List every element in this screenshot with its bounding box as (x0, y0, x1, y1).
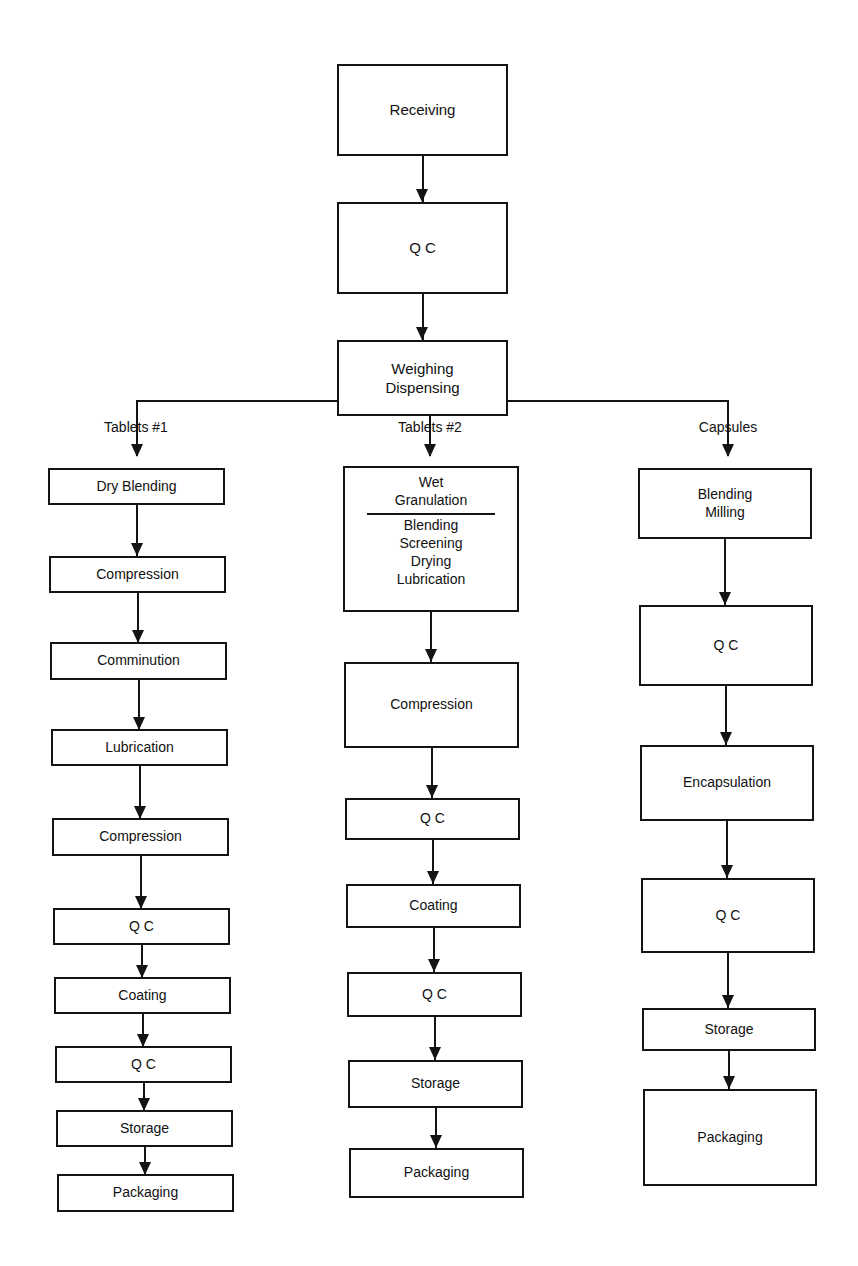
node-label: Q C (129, 918, 154, 936)
node-label: Coating (118, 987, 166, 1005)
arrowhead-c-5 (723, 1076, 735, 1089)
arrowhead-t2-5 (429, 1047, 441, 1060)
node-label: Q C (131, 1056, 156, 1074)
node-t2-packaging: Packaging (349, 1148, 524, 1198)
node-label: Encapsulation (683, 774, 771, 792)
node-label: Compression (390, 696, 472, 714)
node-label: Storage (704, 1021, 753, 1039)
node-label-head1: Wet (419, 474, 444, 492)
node-label: Storage (411, 1075, 460, 1093)
node-t2-storage: Storage (348, 1060, 523, 1108)
node-label: Dry Blending (96, 478, 176, 496)
arrowhead-branch-tablets1 (131, 444, 143, 457)
process-flow-diagram: Receiving Q C Weighing Dispensing Tablet… (0, 0, 858, 1266)
arrowhead-t2-4 (428, 959, 440, 972)
node-t1-coating: Coating (54, 977, 231, 1014)
node-t1-compression-2: Compression (52, 818, 229, 856)
node-label-line2: Dispensing (385, 378, 459, 397)
node-t1-qc-2: Q C (55, 1046, 232, 1083)
node-label: Compression (96, 566, 178, 584)
node-label: Coating (409, 897, 457, 915)
node-t1-compression-1: Compression (49, 556, 226, 593)
arrowhead-c-1 (719, 592, 731, 605)
node-t2-qc-1: Q C (345, 798, 520, 840)
node-label: Q C (420, 810, 445, 828)
node-c-storage: Storage (642, 1008, 816, 1051)
arrowhead-qc-to-weighing (416, 327, 428, 340)
node-qc-top: Q C (337, 202, 508, 294)
node-label: Q C (716, 907, 741, 925)
arrowhead-t2-3 (427, 871, 439, 884)
node-weighing-dispensing: Weighing Dispensing (337, 340, 508, 416)
node-label: Storage (120, 1120, 169, 1138)
node-label: Packaging (697, 1129, 762, 1147)
node-label: Receiving (390, 100, 456, 119)
node-t2-compression: Compression (344, 662, 519, 748)
arrowhead-c-2 (720, 732, 732, 745)
node-label: Packaging (404, 1164, 469, 1182)
node-subitem-drying: Drying (411, 553, 451, 571)
arrowhead-c-3 (721, 865, 733, 878)
arrowhead-receiving-to-qc (416, 189, 428, 202)
node-t1-storage: Storage (56, 1110, 233, 1147)
node-t2-coating: Coating (346, 884, 521, 928)
node-divider (367, 513, 494, 515)
node-label-line1: Blending (698, 486, 753, 504)
node-label: Q C (422, 986, 447, 1004)
node-t2-qc-2: Q C (347, 972, 522, 1017)
node-t1-lubrication: Lubrication (51, 729, 228, 766)
node-t1-qc-1: Q C (53, 908, 230, 945)
arrowhead-t2-2 (426, 785, 438, 798)
branch-label-tablets2: Tablets #2 (350, 419, 510, 435)
node-label: Comminution (97, 652, 179, 670)
node-subitem-lubrication: Lubrication (397, 571, 466, 589)
node-subitem-blending: Blending (404, 517, 459, 535)
arrowhead-t1-1 (131, 543, 143, 556)
arrowhead-t2-6 (430, 1135, 442, 1148)
node-c-encapsulation: Encapsulation (640, 745, 814, 821)
arrowhead-branch-capsules (722, 444, 734, 457)
node-label-line1: Weighing (391, 359, 453, 378)
arrowhead-branch-tablets2 (424, 444, 436, 457)
node-t2-wet-granulation: Wet Granulation Blending Screening Dryin… (343, 466, 519, 612)
arrowhead-t2-1 (425, 649, 437, 662)
node-label: Lubrication (105, 739, 174, 757)
node-t1-dry-blending: Dry Blending (48, 468, 225, 505)
node-label: Q C (714, 637, 739, 655)
node-label-head2: Granulation (395, 492, 467, 510)
branch-label-tablets1: Tablets #1 (56, 419, 216, 435)
branch-label-capsules: Capsules (648, 419, 808, 435)
node-t1-packaging: Packaging (57, 1174, 234, 1212)
branch-bus-left (136, 400, 339, 402)
node-label-line2: Milling (705, 504, 745, 522)
node-c-blending-milling: Blending Milling (638, 468, 812, 539)
node-c-qc-1: Q C (639, 605, 813, 686)
node-label: Compression (99, 828, 181, 846)
arrowhead-c-4 (722, 995, 734, 1008)
node-c-qc-2: Q C (641, 878, 815, 953)
node-subitem-screening: Screening (399, 535, 462, 553)
node-receiving: Receiving (337, 64, 508, 156)
node-label: Q C (409, 238, 436, 257)
branch-bus-right (506, 400, 729, 402)
node-label: Packaging (113, 1184, 178, 1202)
node-t1-comminution: Comminution (50, 642, 227, 680)
node-c-packaging: Packaging (643, 1089, 817, 1186)
